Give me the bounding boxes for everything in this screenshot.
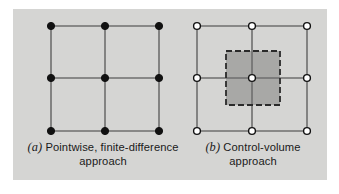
grid-node-filled bbox=[155, 22, 162, 29]
panel-b-caption-line2: approach bbox=[182, 155, 324, 169]
panel-a-caption-line1: (a) Pointwise, finite-difference bbox=[24, 141, 182, 155]
grid-node-filled bbox=[101, 127, 108, 134]
grid-node-open bbox=[304, 128, 311, 135]
figure-container: (a) Pointwise, finite-difference approac… bbox=[0, 0, 339, 194]
grid-node-filled bbox=[155, 127, 162, 134]
panel-b-caption-line1: (b) Control-volume bbox=[182, 141, 324, 155]
panel-a-caption-tag: (a) bbox=[27, 140, 42, 154]
grid-node-open bbox=[194, 75, 201, 82]
grid-node-open bbox=[304, 23, 311, 30]
grid-node-filled bbox=[101, 22, 108, 29]
panel-a-grid bbox=[47, 22, 162, 134]
grid-node-filled bbox=[155, 74, 162, 81]
grid-node-open bbox=[194, 23, 201, 30]
grid-node-filled bbox=[47, 22, 54, 29]
panel-b-caption-text1: Control-volume bbox=[223, 141, 300, 153]
grid-node-open bbox=[194, 128, 201, 135]
grid-node-open bbox=[249, 23, 256, 30]
panel-a-caption-line2: approach bbox=[24, 155, 182, 169]
panel-a-caption-text1: Pointwise, finite-difference bbox=[45, 141, 178, 153]
panel-b-grid bbox=[194, 23, 311, 135]
grid-node-filled bbox=[101, 74, 108, 81]
panel-b-caption-tag: (b) bbox=[205, 140, 220, 154]
panel-a-caption: (a) Pointwise, finite-difference approac… bbox=[24, 141, 182, 168]
grid-node-open bbox=[304, 75, 311, 82]
grid-node-filled bbox=[47, 74, 54, 81]
grid-node-open bbox=[249, 75, 256, 82]
panel-b-caption: (b) Control-volume approach bbox=[182, 141, 324, 168]
grid-node-open bbox=[249, 128, 256, 135]
grid-node-filled bbox=[47, 127, 54, 134]
